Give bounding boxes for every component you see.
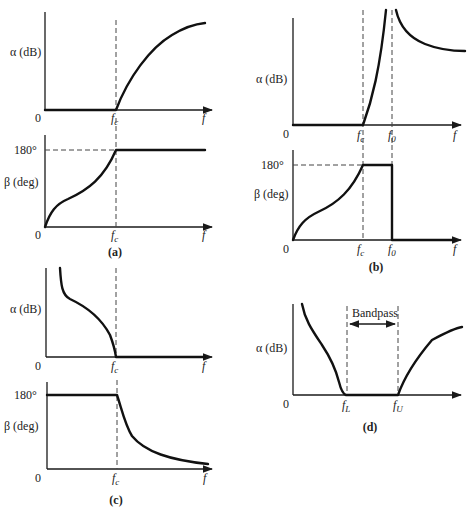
180-degree-label: 180°: [14, 143, 37, 157]
panel-b-phase-plot: 180° β (deg) 0 fc f0 f: [254, 145, 461, 258]
fc-tick-label: fc: [111, 228, 118, 244]
attenuation-curve-fall: [396, 10, 465, 51]
x-axis-label: f: [453, 242, 458, 256]
attenuation-curve-rise: [293, 10, 386, 125]
attenuation-curve: [45, 23, 205, 110]
panel-b-attenuation-plot: α (dB) 0 fc f0 f: [256, 10, 465, 145]
panel-a-phase-plot: 180° β (deg) 0 fc f: [4, 118, 212, 244]
y-axis-label: α (dB): [256, 72, 287, 86]
panel-b: α (dB) 0 fc f0 f 180° β (deg) 0 fc f0 f …: [254, 10, 465, 274]
panel-d: Bandpass α (dB) 0 fL fU (d): [256, 304, 462, 434]
x-axis-label: f: [453, 128, 458, 142]
fc-tick-label: fc: [111, 111, 118, 127]
origin-label: 0: [35, 228, 41, 242]
fc-tick-label: fc: [112, 471, 119, 487]
x-axis-label: f: [202, 359, 207, 373]
phase-curve: [47, 395, 208, 464]
panel-a-attenuation-plot: α (dB) 0 fc f: [10, 12, 212, 127]
y-axis-label: α (dB): [10, 302, 41, 316]
panel-c-attenuation-plot: α (dB) 0 fc f: [10, 268, 212, 375]
fc-tick-label: fc: [357, 242, 364, 258]
y-axis-label: β (deg): [4, 419, 38, 433]
panel-c: α (dB) 0 fc f 180° β (deg) 0 fc f (c): [4, 268, 212, 507]
panel-d-attenuation-plot: Bandpass α (dB) 0 fL fU: [256, 304, 462, 414]
panel-caption: (c): [109, 493, 122, 507]
origin-label: 0: [283, 242, 289, 256]
origin-label: 0: [283, 127, 289, 141]
panel-caption: (a): [108, 245, 122, 259]
origin-label: 0: [35, 471, 41, 485]
y-axis-label: α (dB): [256, 341, 287, 355]
origin-label: 0: [35, 359, 41, 373]
y-axis-label: α (dB): [10, 45, 41, 59]
x-axis-label: f: [202, 228, 207, 242]
y-axis-label: β (deg): [4, 175, 38, 189]
panel-a: α (dB) 0 fc f 180° β (deg) 0 fc f (a): [4, 12, 212, 259]
panel-caption: (d): [363, 420, 378, 434]
fc-tick-label: fc: [111, 359, 118, 375]
phase-curve: [45, 150, 205, 227]
bandpass-label: Bandpass: [352, 306, 398, 320]
phase-curve: [293, 165, 455, 240]
180-degree-label: 180°: [261, 158, 284, 172]
attenuation-curve: [60, 268, 205, 357]
origin-label: 0: [283, 397, 289, 411]
y-axis-label: β (deg): [254, 187, 288, 201]
origin-label: 0: [35, 111, 41, 125]
x-axis-label: f: [202, 111, 207, 125]
fU-tick-label: fU: [393, 398, 403, 414]
fL-tick-label: fL: [342, 398, 350, 414]
f0-tick-label: f0: [388, 242, 396, 258]
panel-c-phase-plot: 180° β (deg) 0 fc f: [4, 380, 212, 487]
filter-characteristics-diagram: α (dB) 0 fc f 180° β (deg) 0 fc f (a): [0, 0, 468, 510]
180-degree-label: 180°: [14, 388, 37, 402]
x-axis-label: f: [203, 471, 208, 485]
panel-caption: (b): [369, 260, 384, 274]
